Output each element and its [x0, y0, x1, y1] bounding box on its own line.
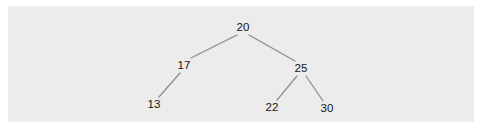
edge-20-17	[191, 35, 237, 58]
edge-25-22	[277, 76, 297, 100]
tree-node-17: 17	[178, 60, 191, 72]
tree-node-20: 20	[237, 22, 250, 34]
tree-node-22: 22	[266, 102, 279, 114]
edge-17-13	[159, 73, 180, 97]
tree-node-30: 30	[321, 103, 334, 115]
edge-20-25	[249, 35, 295, 61]
edge-25-30	[306, 76, 323, 101]
tree-node-13: 13	[148, 99, 161, 111]
tree-node-25: 25	[295, 63, 308, 75]
